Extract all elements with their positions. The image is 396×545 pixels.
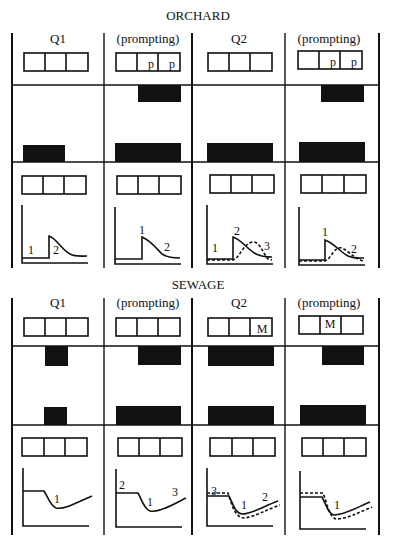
orchard-col1-graph: 1 2 [22, 205, 88, 263]
orchard-cells-bottom [22, 175, 366, 194]
diagram-figure: ORCHARD Q1 (prompting) Q2 (prompting) p … [0, 0, 396, 545]
sewage-col1-graph: 1 [23, 468, 92, 526]
svg-text:2: 2 [262, 490, 268, 504]
sewage-col4-label: (prompting) [298, 295, 361, 310]
sewage-col3-cell3: M [257, 322, 268, 336]
svg-text:1: 1 [54, 492, 60, 506]
svg-text:2: 2 [351, 242, 357, 256]
orchard-col4-cell3: p [351, 55, 357, 69]
orchard-col4-label: (prompting) [298, 31, 361, 46]
orchard-col4-cells-top: p p [298, 51, 362, 69]
svg-text:3: 3 [264, 239, 270, 253]
sewage-cells-bottom [22, 438, 366, 456]
sewage-col3-graph: 3 1 2 [207, 468, 280, 526]
svg-text:1: 1 [28, 243, 34, 257]
sewage-col3-label: Q2 [231, 295, 247, 310]
orchard-col3-label: Q2 [231, 31, 247, 46]
sewage-col4-graph: 1 [300, 471, 372, 529]
orchard-col2-cell3: p [169, 57, 175, 71]
sewage-section: SEWAGE Q1 (prompting) Q2 (prompting) M [12, 277, 379, 535]
orchard-col1-cells-top [24, 53, 88, 71]
orchard-col2-cells-top: p p [116, 53, 180, 71]
svg-text:3: 3 [172, 485, 178, 499]
orchard-section: ORCHARD Q1 (prompting) Q2 (prompting) p … [12, 8, 379, 268]
sewage-col2-cells-top [116, 318, 180, 336]
svg-text:2: 2 [53, 243, 59, 257]
svg-text:2: 2 [234, 224, 240, 238]
orchard-col2-cell2: p [148, 57, 154, 71]
sewage-col4-cell2: M [325, 317, 336, 331]
sewage-blocks [44, 346, 366, 425]
sewage-col4-cells-top: M [299, 316, 363, 334]
sewage-col3-cells-top: M [208, 318, 272, 336]
orchard-col2-graph: 1 2 [115, 207, 181, 264]
orchard-col4-cell2: p [330, 55, 336, 69]
orchard-col1-label: Q1 [50, 31, 66, 46]
svg-text:1: 1 [147, 495, 153, 509]
svg-text:2: 2 [119, 478, 125, 492]
svg-text:3: 3 [211, 484, 217, 498]
svg-text:1: 1 [241, 498, 247, 512]
orchard-col3-cells-top [208, 53, 272, 71]
svg-text:1: 1 [139, 223, 145, 237]
svg-text:1: 1 [212, 241, 218, 255]
sewage-col2-label: (prompting) [117, 295, 180, 310]
svg-text:1: 1 [334, 498, 340, 512]
sewage-col1-cells-top [24, 318, 88, 336]
orchard-col3-graph: 1 2 3 [207, 205, 273, 264]
sewage-col2-graph: 2 1 3 [116, 469, 186, 527]
orchard-col2-label: (prompting) [117, 31, 180, 46]
sewage-col1-label: Q1 [50, 295, 66, 310]
svg-text:1: 1 [322, 225, 328, 239]
svg-text:2: 2 [164, 240, 170, 254]
orchard-title: ORCHARD [166, 8, 230, 23]
orchard-blocks [23, 85, 365, 162]
sewage-title: SEWAGE [172, 277, 225, 292]
orchard-col4-graph: 1 2 [299, 207, 365, 265]
